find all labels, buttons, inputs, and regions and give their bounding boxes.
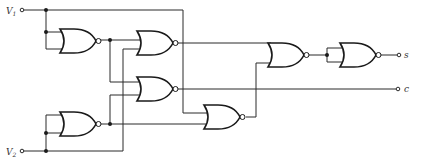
output-label-c: c — [404, 84, 409, 94]
junction-dot — [44, 8, 48, 12]
nor-gate-6 — [340, 43, 381, 67]
junction-dot — [44, 30, 48, 34]
wire-v1-bus — [24, 10, 207, 113]
output-terminal-c — [396, 87, 400, 91]
nor-gate-7 — [60, 112, 101, 136]
wire-g1-to-g3 — [110, 40, 140, 82]
wire-g5-to-g4 — [246, 63, 271, 117]
nor-half-adder-diagram: V1 V2 s c — [0, 0, 424, 167]
circuit-canvas: V1 V2 s c — [0, 0, 424, 167]
output-terminal-s — [397, 53, 401, 57]
input-label-v2: V2 — [6, 147, 17, 158]
nor-gate-3 — [137, 77, 178, 101]
output-label-s: s — [404, 50, 409, 60]
input-terminal-v1 — [20, 8, 24, 12]
junction-dot — [325, 53, 329, 57]
input-label-v1: V1 — [6, 6, 16, 17]
nor-gate-5 — [204, 105, 245, 129]
wire-v2-to-g7 — [46, 115, 63, 151]
nor-gate-4 — [268, 43, 309, 67]
nor-gate-2 — [137, 31, 178, 55]
junction-dot — [44, 149, 48, 153]
junction-dot — [108, 38, 112, 42]
junction-dot — [108, 122, 112, 126]
wire-g7-to-g3 — [110, 95, 140, 124]
junction-dot — [44, 131, 48, 135]
input-terminal-v2 — [20, 149, 24, 153]
nor-gate-1 — [60, 29, 101, 53]
